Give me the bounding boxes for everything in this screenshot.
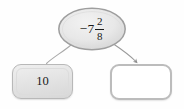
blank-answer-box[interactable] — [110, 64, 172, 100]
whole-digits: 7 — [87, 21, 94, 36]
fraction-numerator: 2 — [96, 16, 104, 27]
filled-answer-box[interactable]: 10 — [12, 64, 73, 99]
mixed-number-expression: −7 2 8 — [80, 16, 104, 41]
fraction-denominator: 8 — [96, 31, 104, 42]
diagram-canvas: −7 2 8 10 — [0, 0, 184, 109]
mixed-number-node[interactable]: −7 2 8 — [57, 7, 127, 51]
whole-number-part: −7 — [80, 22, 95, 36]
filled-answer-box-value: 10 — [36, 74, 49, 89]
mixed-number-label: −7 2 8 — [57, 7, 127, 51]
fraction: 2 8 — [95, 16, 104, 41]
